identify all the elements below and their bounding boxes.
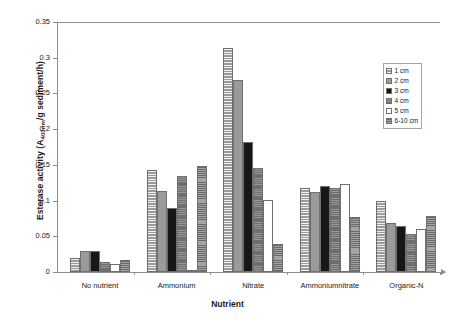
chart-legend: 1 cm2 cm3 cm4 cm5 cm6-10 cm	[383, 63, 422, 129]
legend-swatch	[386, 78, 392, 84]
legend-label: 1 cm	[395, 68, 409, 75]
legend-swatch	[386, 98, 392, 104]
bar[interactable]	[386, 223, 396, 272]
legend-label: 4 cm	[395, 98, 409, 105]
bar[interactable]	[90, 251, 100, 272]
bar[interactable]	[396, 226, 406, 272]
y-axis-tick-label: 0.1	[40, 196, 50, 205]
y-axis-tick-label: 0.35	[35, 17, 50, 26]
x-axis-line	[57, 272, 445, 273]
legend-swatch	[386, 68, 392, 74]
bar[interactable]	[330, 188, 340, 272]
bar[interactable]	[233, 80, 243, 272]
bar[interactable]	[157, 191, 167, 272]
legend-item[interactable]: 6-10 cm	[386, 116, 418, 126]
bar-group	[70, 22, 130, 272]
x-axis-tick-mark	[440, 272, 441, 275]
bar[interactable]	[263, 200, 273, 272]
x-axis-category-label: Organic-N	[346, 281, 455, 290]
bar[interactable]	[300, 188, 310, 272]
bar[interactable]	[350, 217, 360, 272]
bar[interactable]	[197, 166, 207, 272]
legend-label: 6-10 cm	[395, 118, 419, 125]
bar[interactable]	[340, 184, 350, 272]
y-axis-tick-label: 0.3	[40, 53, 50, 62]
bar[interactable]	[70, 258, 80, 272]
y-axis-tick-label: 0.25	[35, 88, 50, 97]
x-axis-tick-mark	[210, 272, 211, 275]
y-axis-tick-label: 0.2	[40, 124, 50, 133]
chart-figure: Esterase activity (A400nm/g sediment/h) …	[0, 0, 455, 320]
legend-item[interactable]: 3 cm	[386, 86, 418, 96]
bar[interactable]	[376, 201, 386, 272]
x-axis-tick-mark	[134, 272, 135, 275]
bar-group	[376, 22, 436, 272]
bar[interactable]	[167, 208, 177, 272]
legend-label: 2 cm	[395, 78, 409, 85]
bar[interactable]	[120, 260, 130, 272]
y-axis-tick-label: 0	[46, 267, 50, 276]
bar[interactable]	[187, 270, 197, 272]
x-axis-tick-mark	[287, 272, 288, 275]
legend-item[interactable]: 5 cm	[386, 106, 418, 116]
bar-series-container	[57, 22, 440, 272]
bar-group	[223, 22, 283, 272]
bar[interactable]	[253, 168, 263, 272]
bar[interactable]	[243, 142, 253, 272]
bar[interactable]	[110, 264, 120, 272]
bar[interactable]	[80, 251, 90, 272]
x-axis-tick-mark	[363, 272, 364, 275]
bar[interactable]	[426, 216, 436, 272]
bar[interactable]	[273, 244, 283, 272]
y-axis-tick-mark	[53, 272, 57, 273]
bar[interactable]	[100, 262, 110, 272]
bar[interactable]	[416, 229, 426, 272]
legend-swatch	[386, 108, 392, 114]
bar[interactable]	[177, 176, 187, 272]
bar-group	[300, 22, 360, 272]
x-axis-arrow	[441, 269, 446, 275]
bar[interactable]	[147, 170, 157, 272]
bar[interactable]	[406, 234, 416, 272]
legend-label: 5 cm	[395, 108, 409, 115]
bar[interactable]	[320, 186, 330, 272]
legend-item[interactable]: 4 cm	[386, 96, 418, 106]
legend-item[interactable]: 1 cm	[386, 66, 418, 76]
bar[interactable]	[310, 192, 320, 272]
bar[interactable]	[223, 48, 233, 272]
legend-swatch	[386, 118, 392, 124]
legend-item[interactable]: 2 cm	[386, 76, 418, 86]
legend-swatch	[386, 88, 392, 94]
bar-group	[147, 22, 207, 272]
y-axis-tick-label: 0.05	[35, 231, 50, 240]
y-axis-tick-label: 0.15	[35, 160, 50, 169]
legend-label: 3 cm	[395, 88, 409, 95]
x-axis-title: Nutrient	[0, 299, 455, 309]
